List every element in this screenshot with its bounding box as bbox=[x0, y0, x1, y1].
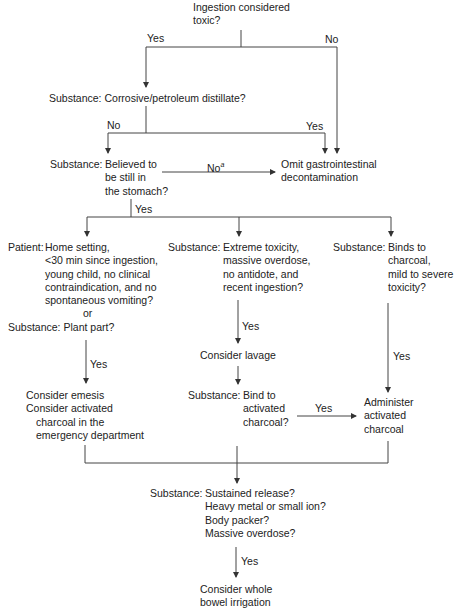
node-line: decontamination bbox=[281, 171, 377, 184]
node-line: charcoal? bbox=[243, 416, 289, 429]
edge-label-stomach-no: Noa bbox=[207, 158, 224, 175]
node-sustained-release: Substance: Sustained release? Heavy meta… bbox=[150, 487, 326, 540]
node-patient: Patient: Home setting, <30 min since ing… bbox=[8, 241, 158, 334]
node-stomach: Substance: Believed to be still in the s… bbox=[50, 158, 168, 198]
node-binds-charcoal: Substance: Binds to charcoal, mild to se… bbox=[333, 241, 453, 294]
node-line: toxicity? bbox=[388, 281, 453, 294]
node-prefix: Patient: bbox=[8, 241, 44, 254]
node-line: activated bbox=[364, 409, 414, 422]
node-consider-emesis: Consider emesis Consider activated charc… bbox=[26, 389, 144, 442]
node-line: no antidote, and bbox=[223, 268, 311, 281]
node-corrosive: Substance: Corrosive/petroleum distillat… bbox=[49, 92, 246, 105]
node-prefix: Substance: bbox=[50, 158, 103, 171]
node-line: Administer bbox=[364, 396, 414, 409]
node-line: activated bbox=[243, 402, 289, 415]
node-line: <30 min since ingestion, bbox=[45, 254, 158, 267]
node-prefix: Substance: bbox=[168, 241, 221, 254]
node-line: Consider whole bbox=[200, 583, 272, 596]
edge-label-patient-yes: Yes bbox=[90, 358, 107, 371]
node-prefix: Substance: bbox=[333, 241, 386, 254]
edge-label-extreme-yes: Yes bbox=[242, 320, 259, 333]
node-omit-gi-decontamination: Omit gastrointestinal decontamination bbox=[281, 158, 377, 185]
node-line: Omit gastrointestinal bbox=[281, 158, 377, 171]
node-line: charcoal, bbox=[388, 254, 453, 267]
edge-label-corrosive-no: No bbox=[107, 119, 120, 132]
node-line: the stomach? bbox=[105, 185, 168, 198]
node-line: Heavy metal or small ion? bbox=[205, 500, 326, 513]
node-line: Massive overdose? bbox=[205, 527, 326, 540]
node-line: bowel irrigation bbox=[200, 596, 272, 609]
node-ingestion-toxic: Ingestion considered toxic? bbox=[193, 1, 290, 28]
node-line: charcoal in the bbox=[36, 416, 144, 429]
node-line: contraindication, and no bbox=[45, 281, 158, 294]
node-prefix: Substance: bbox=[188, 389, 241, 402]
node-line: toxic? bbox=[193, 14, 290, 27]
edge-label-text: No bbox=[207, 162, 220, 174]
node-line: Sustained release? bbox=[205, 487, 326, 500]
node-line: emergency department bbox=[36, 429, 144, 442]
node-line: Body packer? bbox=[205, 514, 326, 527]
footnote-marker: a bbox=[220, 161, 224, 168]
node-line: Consider activated bbox=[26, 402, 144, 415]
edge-label-bind-ac-yes: Yes bbox=[315, 402, 332, 415]
edge-label-sustained-yes: Yes bbox=[241, 555, 258, 568]
node-consider-lavage: Consider lavage bbox=[200, 349, 276, 362]
edge-label-toxic-yes: Yes bbox=[147, 32, 164, 45]
node-line: massive overdose, bbox=[223, 254, 311, 267]
edge-label-stomach-yes: Yes bbox=[135, 203, 152, 216]
node-line: Extreme toxicity, bbox=[223, 241, 311, 254]
node-line: young child, no clinical bbox=[45, 268, 158, 281]
edge-label-binds-yes: Yes bbox=[393, 350, 410, 363]
node-line: Bind to bbox=[243, 389, 289, 402]
node-line: mild to severe bbox=[388, 268, 453, 281]
node-plant-part: Substance: Plant part? bbox=[8, 321, 158, 334]
node-line: Binds to bbox=[388, 241, 453, 254]
node-whole-bowel-irrigation: Consider whole bowel irrigation bbox=[200, 583, 272, 610]
node-line: Consider emesis bbox=[26, 389, 144, 402]
node-line: Home setting, bbox=[45, 241, 158, 254]
node-line: Ingestion considered bbox=[193, 1, 290, 14]
node-line: charcoal bbox=[364, 423, 414, 436]
edge-label-corrosive-yes: Yes bbox=[306, 120, 323, 133]
node-bind-activated-charcoal: Substance: Bind to activated charcoal? bbox=[188, 389, 289, 429]
node-or: or bbox=[83, 307, 158, 320]
node-line: spontaneous vomiting? bbox=[45, 294, 158, 307]
node-prefix: Substance: bbox=[150, 487, 203, 500]
node-line: be still in bbox=[105, 171, 168, 184]
node-extreme-toxicity: Substance: Extreme toxicity, massive ove… bbox=[168, 241, 311, 294]
node-administer-activated-charcoal: Administer activated charcoal bbox=[364, 396, 414, 436]
edge-label-toxic-no: No bbox=[325, 33, 338, 46]
node-line: Believed to bbox=[105, 158, 168, 171]
node-line: recent ingestion? bbox=[223, 281, 311, 294]
